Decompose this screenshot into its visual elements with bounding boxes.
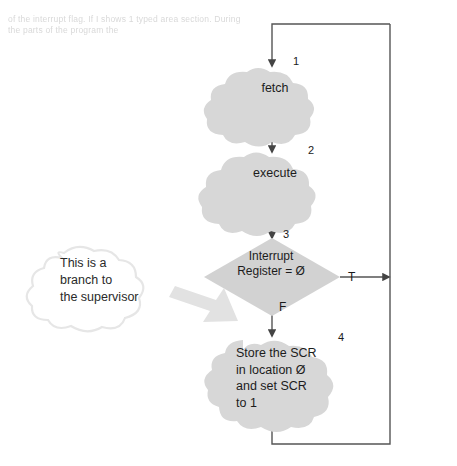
- branch-label-false: F: [279, 302, 286, 313]
- loop-top-segment: [272, 24, 390, 66]
- annotation-label: This is a branch to the supervisor: [60, 255, 200, 306]
- step-number-1: 1: [293, 56, 299, 67]
- node-store-label: Store the SCR in location Ø and set SCR …: [236, 345, 346, 411]
- node-fetch-label: fetch: [215, 81, 335, 96]
- flowchart-graphics: [0, 0, 457, 466]
- branch-label-true: T: [348, 272, 355, 283]
- flowchart-canvas: of the interrupt flag. If I shows 1 type…: [0, 0, 457, 466]
- node-execute-label: execute: [213, 166, 337, 181]
- node-decision-label: Interrupt Register = Ø: [206, 249, 336, 278]
- node-fetch-shape: [204, 68, 314, 147]
- step-number-2: 2: [308, 145, 314, 156]
- step-number-3: 3: [283, 229, 289, 240]
- step-number-4: 4: [338, 332, 344, 343]
